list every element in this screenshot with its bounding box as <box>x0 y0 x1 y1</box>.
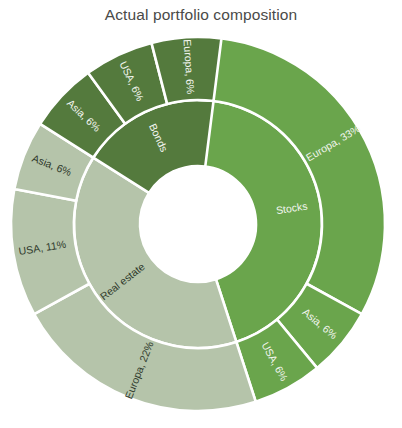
sunburst-chart: StocksReal estateBonds Europa, 33%Asia, … <box>0 0 402 428</box>
outer-ring-slices <box>11 37 385 411</box>
chart-container: Actual portfolio composition StocksReal … <box>0 0 402 428</box>
